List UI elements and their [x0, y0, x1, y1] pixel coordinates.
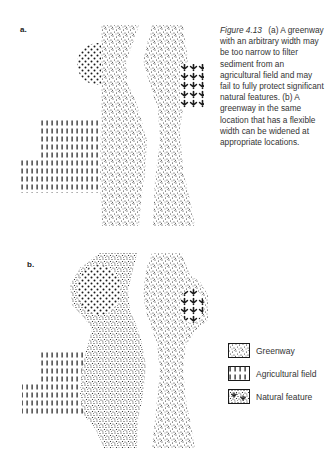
figure-caption: Figure 4.13 (a) A greenway with an arbit… [220, 25, 324, 148]
legend-label: Greenway [256, 346, 295, 356]
natural-feature-woodland-b [77, 265, 121, 315]
natural-feature-swatch-icon [228, 389, 250, 404]
agricultural-field-a [20, 120, 100, 193]
caption-text: (a) A greenway with an arbitrary width m… [220, 25, 324, 147]
greenway-swatch-icon [228, 343, 250, 358]
greenway-right-strip-a [143, 25, 195, 226]
panel-b-label: b. [27, 260, 34, 269]
legend-label: Natural feature [256, 392, 312, 402]
panel-a-label: a. [20, 25, 27, 34]
greenway-left-strip-a [100, 25, 147, 226]
panel-b-drawing [22, 253, 208, 448]
natural-feature-trees-a [180, 64, 204, 108]
agricultural-field-b [22, 350, 84, 416]
legend-item-agricultural-field: Agricultural field [228, 364, 327, 383]
legend-label: Agricultural field [256, 369, 316, 379]
panel-a-drawing [20, 25, 204, 226]
greenway-right-strip-b [143, 253, 208, 448]
legend-item-greenway: Greenway [228, 341, 327, 360]
figure-number: Figure 4.13 [220, 25, 262, 35]
natural-feature-trees-b [180, 289, 204, 323]
legend-item-natural-feature: Natural feature [228, 387, 327, 406]
legend: Greenway Agricultural field Natural feat… [228, 341, 327, 410]
agricultural-field-swatch-icon [228, 366, 250, 381]
